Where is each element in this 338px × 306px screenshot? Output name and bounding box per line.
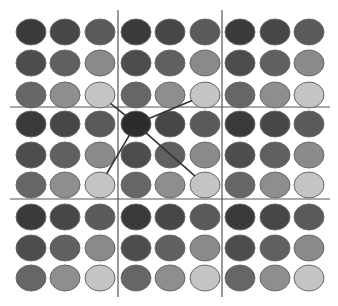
- dot: [294, 172, 324, 198]
- dot: [16, 111, 46, 137]
- dot: [16, 50, 46, 76]
- dot: [225, 111, 255, 137]
- dot: [121, 265, 151, 291]
- dot: [50, 142, 80, 168]
- dot: [155, 50, 185, 76]
- dot: [121, 204, 151, 230]
- dot: [225, 50, 255, 76]
- dot: [50, 50, 80, 76]
- dot: [16, 204, 46, 230]
- dot: [190, 142, 220, 168]
- dot: [16, 235, 46, 261]
- dot: [260, 265, 290, 291]
- dot: [260, 19, 290, 45]
- dot: [260, 235, 290, 261]
- dot: [85, 204, 115, 230]
- dot: [190, 50, 220, 76]
- dot: [121, 50, 151, 76]
- dot: [225, 235, 255, 261]
- dot: [16, 19, 46, 45]
- dot: [190, 235, 220, 261]
- dot: [50, 172, 80, 198]
- dot: [260, 82, 290, 108]
- dot: [85, 172, 115, 198]
- dot: [85, 19, 115, 45]
- dot: [85, 50, 115, 76]
- dot: [85, 142, 115, 168]
- dot: [190, 82, 220, 108]
- dot: [16, 172, 46, 198]
- dot: [121, 19, 151, 45]
- dot: [155, 19, 185, 45]
- connection-lines: [106, 100, 195, 176]
- dot: [121, 172, 151, 198]
- dot: [294, 111, 324, 137]
- dot: [260, 204, 290, 230]
- dot-grid-diagram: [0, 0, 338, 306]
- dot: [260, 50, 290, 76]
- dot: [294, 82, 324, 108]
- dot: [121, 235, 151, 261]
- diagram-svg: [0, 0, 338, 306]
- dot: [190, 204, 220, 230]
- dot: [155, 265, 185, 291]
- dot: [225, 204, 255, 230]
- dot: [85, 111, 115, 137]
- dot: [190, 265, 220, 291]
- dot: [155, 172, 185, 198]
- dot: [155, 235, 185, 261]
- dot: [294, 50, 324, 76]
- dot: [155, 82, 185, 108]
- dot: [260, 142, 290, 168]
- dot: [294, 204, 324, 230]
- dot: [121, 142, 151, 168]
- dot: [225, 19, 255, 45]
- dot: [225, 172, 255, 198]
- dot: [225, 142, 255, 168]
- dot: [50, 82, 80, 108]
- dot: [225, 265, 255, 291]
- dot: [294, 235, 324, 261]
- dot: [16, 142, 46, 168]
- dot: [16, 265, 46, 291]
- dot: [260, 111, 290, 137]
- dot: [190, 19, 220, 45]
- dot: [294, 265, 324, 291]
- dot: [50, 111, 80, 137]
- dot: [294, 142, 324, 168]
- dot: [85, 265, 115, 291]
- dot: [50, 265, 80, 291]
- dot: [225, 82, 255, 108]
- dot: [50, 204, 80, 230]
- dot: [294, 19, 324, 45]
- dot: [260, 172, 290, 198]
- dot: [50, 235, 80, 261]
- dot: [155, 204, 185, 230]
- dot: [16, 82, 46, 108]
- dot: [190, 111, 220, 137]
- dot: [121, 82, 151, 108]
- dot: [50, 19, 80, 45]
- dot: [85, 235, 115, 261]
